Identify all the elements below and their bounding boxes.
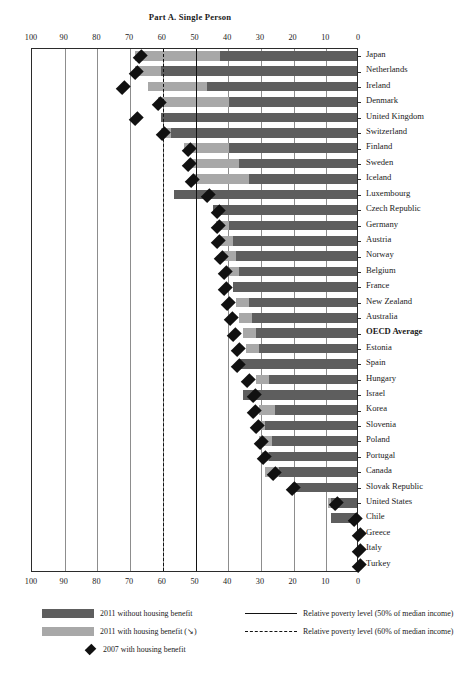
bar-without-housing-benefit	[229, 97, 357, 107]
category-label-slovak-republic: Slovak Republic	[366, 479, 423, 494]
x-axis-tick-top-50: 50	[183, 33, 207, 42]
category-label-iceland: Iceland	[366, 170, 391, 185]
row-tick	[357, 102, 361, 103]
category-label-italy: Italy	[366, 540, 382, 555]
marker-2007-with-housing-benefit	[116, 80, 130, 94]
category-label-switzerland: Switzerland	[366, 124, 407, 139]
bar-without-housing-benefit	[229, 143, 357, 153]
bar-without-housing-benefit	[295, 483, 357, 493]
category-label-israel: Israel	[366, 386, 385, 401]
bar-without-housing-benefit	[239, 267, 357, 277]
x-axis-tick-top-30: 30	[248, 33, 272, 42]
x-axis-tick-top-10: 10	[313, 33, 337, 42]
bar-without-housing-benefit	[161, 113, 357, 123]
x-axis-tick-top-60: 60	[150, 33, 174, 42]
bar-row	[32, 219, 357, 234]
row-tick	[357, 380, 361, 381]
bar-without-housing-benefit	[239, 159, 357, 169]
bar-row	[32, 326, 357, 341]
chart-root: Part A. Single Person 100908070605040302…	[0, 0, 466, 689]
row-tick	[357, 195, 361, 196]
category-label-netherlands: Netherlands	[366, 62, 408, 77]
bar-row	[32, 342, 357, 357]
row-tick	[357, 133, 361, 134]
category-label-luxembourg: Luxembourg	[366, 186, 410, 201]
category-label-canada: Canada	[366, 463, 392, 478]
bar-row	[32, 403, 357, 418]
marker-2007-with-housing-benefit	[228, 327, 242, 341]
category-label-united-kingdom: United Kingdom	[366, 109, 424, 124]
bar-without-housing-benefit	[249, 174, 357, 184]
row-tick	[357, 56, 361, 57]
marker-2007-with-housing-benefit	[156, 127, 170, 141]
category-label-denmark: Denmark	[366, 93, 398, 108]
panel-title: Part A. Single Person	[0, 12, 380, 22]
swatch-dark-icon	[42, 609, 94, 618]
category-label-portugal: Portugal	[366, 448, 395, 463]
bar-row	[32, 542, 357, 557]
row-tick	[357, 179, 361, 180]
bar-row	[32, 111, 357, 126]
bar-without-housing-benefit	[161, 66, 357, 76]
row-tick	[357, 287, 361, 288]
bar-row	[32, 388, 357, 403]
marker-2007-with-housing-benefit	[129, 111, 143, 125]
category-label-oecd-average: OECD Average	[366, 324, 422, 339]
x-axis-tick-top-80: 80	[84, 33, 108, 42]
bar-row	[32, 234, 357, 249]
bar-without-housing-benefit	[171, 128, 357, 138]
row-tick	[357, 241, 361, 242]
category-label-czech-republic: Czech Republic	[366, 201, 421, 216]
bar-without-housing-benefit	[275, 405, 357, 415]
bar-row	[32, 511, 357, 526]
x-axis-tick-top-20: 20	[281, 33, 305, 42]
row-tick	[357, 426, 361, 427]
marker-2007-with-housing-benefit	[218, 281, 232, 295]
x-axis-tick-bottom-0: 0	[346, 577, 370, 586]
bar-row	[32, 465, 357, 480]
row-tick	[357, 318, 361, 319]
bar-row	[32, 80, 357, 95]
bar-row	[32, 172, 357, 187]
bar-without-housing-benefit	[233, 282, 357, 292]
category-label-chile: Chile	[366, 509, 385, 524]
x-axis-bottom: 1009080706050403020100	[0, 577, 466, 589]
x-axis-tick-top-70: 70	[117, 33, 141, 42]
bar-row	[32, 496, 357, 511]
marker-2007-with-housing-benefit	[352, 543, 366, 557]
bar-row	[32, 527, 357, 542]
bar-without-housing-benefit	[207, 82, 357, 92]
row-tick	[357, 72, 361, 73]
marker-2007-with-housing-benefit	[231, 342, 245, 356]
category-label-united-states: United States	[366, 494, 412, 509]
bar-row	[32, 64, 357, 79]
legend-label: 2011 with housing benefit (↘)	[100, 627, 197, 636]
bar-without-housing-benefit	[249, 298, 357, 308]
row-tick	[357, 272, 361, 273]
bar-without-housing-benefit	[213, 205, 357, 215]
legend-label: Relative poverty level (60% of median in…	[303, 627, 453, 636]
bar-without-housing-benefit	[279, 467, 357, 477]
x-axis-tick-top-100: 100	[19, 33, 43, 42]
row-tick	[357, 210, 361, 211]
bar-row	[32, 450, 357, 465]
x-axis-tick-bottom-90: 90	[52, 577, 76, 586]
marker-2007-with-housing-benefit	[352, 527, 366, 541]
row-tick	[357, 395, 361, 396]
x-axis-tick-top-0: 0	[346, 33, 370, 42]
x-axis-tick-bottom-30: 30	[248, 577, 272, 586]
bar-row	[32, 49, 357, 64]
legend-item-light: 2011 with housing benefit (↘)	[42, 626, 197, 636]
row-tick	[357, 226, 361, 227]
bar-row	[32, 141, 357, 156]
category-label-austria: Austria	[366, 232, 391, 247]
bar-row	[32, 419, 357, 434]
row-tick	[357, 472, 361, 473]
legend-item-diamond: 2007 with housing benefit	[42, 644, 186, 654]
category-label-slovenia: Slovenia	[366, 417, 396, 432]
line-solid-icon	[245, 613, 297, 614]
category-label-sweden: Sweden	[366, 155, 393, 170]
marker-2007-with-housing-benefit	[241, 373, 255, 387]
bar-without-housing-benefit	[269, 375, 357, 385]
legend-label: 2007 with housing benefit	[103, 645, 186, 654]
